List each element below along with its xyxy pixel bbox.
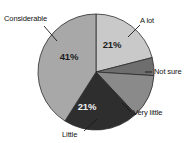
pie-label-not-sure: Not sure — [154, 68, 182, 76]
pie-value-a-lot: 21% — [103, 39, 122, 50]
pie-value-considerable: 41% — [60, 51, 79, 62]
pie-label-considerable: Considerable — [4, 15, 47, 23]
pie-label-a-lot: A lot — [140, 17, 154, 25]
pie-label-very-little: Very little — [133, 109, 162, 117]
pie-label-little: Little — [62, 131, 77, 139]
pie-chart: 21% 21% 41% Considerable A lot Not sure … — [0, 0, 189, 143]
pie-value-little: 21% — [78, 101, 97, 112]
